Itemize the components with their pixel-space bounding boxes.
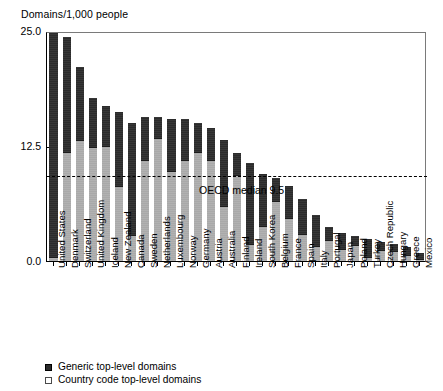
bar-segment-generic xyxy=(220,140,228,206)
bar-segment-generic xyxy=(207,128,215,160)
y-axis-title: Domains/1,000 people xyxy=(21,8,128,20)
x-axis-label-hungary: Hungary xyxy=(397,232,408,268)
x-axis-label-iceland: Iceland xyxy=(109,237,120,268)
x-axis-label-france: France xyxy=(292,238,303,268)
bar-segment-generic xyxy=(298,199,306,234)
bar-segment-generic xyxy=(233,153,241,174)
x-axis-label-austria: Austria xyxy=(213,238,224,268)
bar-segment-generic xyxy=(181,119,189,159)
x-axis-label-united-states: United States xyxy=(56,210,67,268)
chart-page: Domains/1,000 people 0.012.525.0 OECD me… xyxy=(0,0,443,391)
x-axis-label-south-korea: South Korea xyxy=(266,215,277,268)
x-axis-label-mexico: Mexico xyxy=(423,238,434,268)
x-axis-label-czech-republic: Czech Republic xyxy=(384,201,395,268)
chart-legend: Generic top-level domains Country code t… xyxy=(45,362,201,388)
bar-segment-generic xyxy=(63,37,71,151)
legend-swatch-generic-icon xyxy=(45,364,52,371)
bar-segment-generic xyxy=(115,112,123,186)
x-axis-label-italy: Italy xyxy=(318,250,329,268)
bar-segment-generic xyxy=(102,106,110,146)
x-axis-label-netherlands: Netherlands xyxy=(161,216,172,268)
x-axis-label-japan: Japan xyxy=(344,242,355,268)
x-axis-label-switzerland: Switzerland xyxy=(82,218,93,268)
bar-segment-generic xyxy=(89,98,97,147)
bar-segment-generic xyxy=(194,123,202,152)
bar-segment-generic xyxy=(167,119,175,171)
x-axis-label-sweden: Sweden xyxy=(148,233,159,268)
bar-segment-generic xyxy=(285,186,293,218)
y-axis-tick-label: 25.0 xyxy=(0,25,41,37)
legend-swatch-country-code-icon xyxy=(45,377,52,384)
y-axis-tick-label: 12.5 xyxy=(0,140,41,152)
x-axis-label-australia: Australia xyxy=(226,231,237,268)
bar-segment-generic xyxy=(76,67,84,141)
oecd-median-label: OECD median 9.5 xyxy=(199,184,284,196)
x-axis-tick-mark xyxy=(53,262,54,266)
x-axis-label-spain: Spain xyxy=(305,243,316,268)
x-axis-label-turkey: Turkey xyxy=(371,239,382,268)
bar-segment-generic xyxy=(312,215,320,246)
y-axis-tick-label: 0.0 xyxy=(0,255,41,267)
x-axis-label-poland: Poland xyxy=(358,238,369,268)
x-axis-label-finland: Finland xyxy=(240,237,251,268)
legend-label-country-code: Country code top-level domains xyxy=(58,375,201,385)
x-axis-label-denmark: Denmark xyxy=(69,229,80,268)
oecd-median-line xyxy=(47,176,427,177)
x-axis-label-luxembourg: Luxembourg xyxy=(174,215,185,268)
bar-segment-generic xyxy=(141,117,149,160)
x-axis-label-greece: Greece xyxy=(410,237,421,268)
x-axis-label-canada: Canada xyxy=(135,234,146,268)
bar-segment-generic xyxy=(154,117,162,138)
x-axis-label-united-kingdom: United Kingdom xyxy=(95,200,106,268)
x-axis-label-germany: Germany xyxy=(200,229,211,268)
x-axis-label-belgium: Belgium xyxy=(279,233,290,268)
legend-label-generic: Generic top-level domains xyxy=(58,362,176,372)
x-axis-label-ireland: Ireland xyxy=(253,239,264,268)
x-axis-label-new-zealand: New Zealand xyxy=(122,211,133,268)
legend-item-country-code: Country code top-level domains xyxy=(45,375,201,385)
x-axis-label-norway: Norway xyxy=(187,235,198,268)
legend-item-generic: Generic top-level domains xyxy=(45,362,201,372)
x-axis-label-portugal: Portugal xyxy=(331,232,342,268)
